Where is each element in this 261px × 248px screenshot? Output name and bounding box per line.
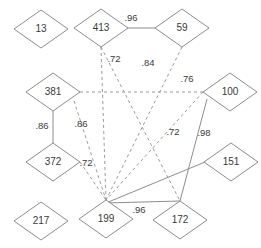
node-label: 151 (223, 156, 240, 167)
edge-weight-label: .76 (180, 73, 193, 84)
graph-node[interactable]: 199 (79, 200, 133, 238)
graph-node[interactable]: 217 (14, 202, 68, 240)
edge-weight-label: .96 (124, 12, 137, 23)
node-label: 59 (176, 22, 188, 33)
graph-node[interactable]: 151 (204, 143, 258, 181)
edge-layer (53, 28, 207, 203)
graph-edge (101, 47, 106, 200)
edge-weight-label: .72 (79, 157, 92, 168)
node-label: 199 (98, 213, 115, 224)
node-label: 372 (45, 156, 62, 167)
graph-edge (106, 47, 182, 200)
graph-edge (101, 47, 180, 201)
node-label: 217 (33, 215, 50, 226)
edge-weight-label: .98 (197, 127, 210, 138)
node-label: 172 (172, 214, 189, 225)
edge-weight-label: .86 (35, 120, 48, 131)
node-label: 413 (93, 22, 110, 33)
node-label: 381 (45, 86, 62, 97)
graph-edge (80, 162, 106, 200)
graph-node[interactable]: 381 (26, 73, 80, 111)
graph-edge (74, 101, 106, 200)
graph-edge (180, 99, 207, 201)
edge-weight-label: .96 (132, 204, 145, 215)
edge-weight-label: .72 (166, 126, 179, 137)
graph-node[interactable]: 372 (26, 143, 80, 181)
graph-svg: .96.72.84.76.86.86.72.72.98.96 134135938… (0, 0, 261, 248)
graph-edge (106, 162, 205, 203)
graph-node[interactable]: 59 (155, 9, 209, 47)
node-label: 100 (222, 86, 239, 97)
graph-edge (106, 92, 203, 200)
edge-weight-label: .72 (107, 53, 120, 64)
graph-node[interactable]: 13 (14, 10, 68, 48)
graph-node[interactable]: 172 (153, 201, 207, 239)
edge-weight-label: .86 (74, 118, 87, 129)
edge-weight-label: .84 (141, 57, 154, 68)
graph-node[interactable]: 100 (203, 73, 257, 111)
diagram-canvas: .96.72.84.76.86.86.72.72.98.96 134135938… (0, 0, 261, 248)
node-label: 13 (35, 23, 47, 34)
graph-node[interactable]: 413 (74, 9, 128, 47)
